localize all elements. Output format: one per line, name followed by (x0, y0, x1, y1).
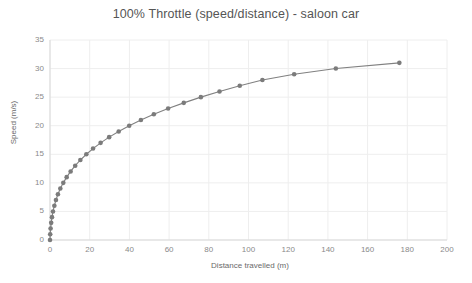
x-tick-label: 140 (316, 245, 340, 254)
data-point (56, 192, 61, 197)
data-point (52, 203, 57, 208)
chart-plot-area (0, 0, 472, 283)
y-axis-title: Speed (m/s) (9, 88, 18, 158)
y-tick-label: 25 (22, 92, 44, 101)
data-point (152, 112, 157, 117)
series-line (50, 63, 399, 240)
data-point (48, 226, 53, 231)
data-point (260, 78, 265, 83)
data-point (139, 118, 144, 123)
data-point (237, 83, 242, 88)
data-point (116, 129, 121, 134)
data-point (64, 175, 69, 180)
data-point (68, 169, 73, 174)
data-series (48, 61, 402, 243)
data-point (217, 89, 222, 94)
data-point (91, 146, 96, 151)
chart-container: 100% Throttle (speed/distance) - saloon … (0, 0, 472, 283)
y-tick-label: 5 (22, 206, 44, 215)
data-point (199, 95, 204, 100)
x-tick-label: 20 (78, 245, 102, 254)
data-point (181, 101, 186, 106)
grid-lines (50, 40, 447, 240)
y-tick-label: 15 (22, 149, 44, 158)
x-tick-label: 60 (157, 245, 181, 254)
data-point (48, 238, 53, 243)
data-point (397, 61, 402, 66)
data-point (49, 221, 54, 226)
x-tick-label: 0 (38, 245, 62, 254)
y-tick-label: 0 (22, 235, 44, 244)
data-point (334, 66, 339, 71)
data-point (84, 152, 89, 157)
data-point (107, 135, 112, 140)
x-tick-label: 40 (117, 245, 141, 254)
data-point (73, 163, 78, 168)
data-point (292, 72, 297, 77)
x-tick-label: 160 (356, 245, 380, 254)
data-point (48, 232, 53, 237)
data-point (51, 209, 56, 214)
x-tick-label: 80 (197, 245, 221, 254)
x-tick-label: 200 (435, 245, 459, 254)
data-point (50, 215, 55, 220)
data-point (54, 198, 59, 203)
data-point (98, 141, 103, 146)
x-tick-label: 120 (276, 245, 300, 254)
data-point (78, 158, 83, 163)
y-tick-label: 10 (22, 178, 44, 187)
x-axis-title: Distance travelled (m) (50, 261, 450, 270)
x-tick-label: 180 (395, 245, 419, 254)
y-tick-label: 20 (22, 121, 44, 130)
data-point (127, 123, 132, 128)
data-point (166, 106, 171, 111)
x-tick-label: 100 (237, 245, 261, 254)
data-point (61, 181, 66, 186)
y-tick-label: 30 (22, 64, 44, 73)
data-point (58, 186, 63, 191)
y-tick-label: 35 (22, 35, 44, 44)
